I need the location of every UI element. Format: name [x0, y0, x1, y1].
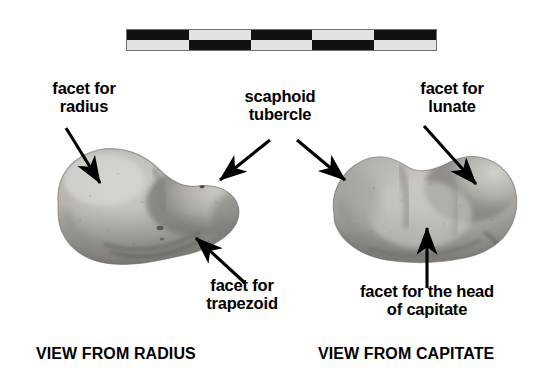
label-scaphoid-tubercle: scaphoid tubercle — [210, 88, 350, 124]
scale-cell — [127, 30, 189, 40]
scale-cell — [312, 30, 374, 40]
scale-cell — [374, 30, 436, 40]
scale-cell — [251, 30, 313, 40]
scale-bar-top-row — [127, 30, 436, 40]
label-facet-for-trapezoid: facet for trapezoid — [166, 277, 318, 313]
label-facet-for-radius: facet for radius — [18, 80, 150, 116]
scale-cell — [251, 40, 313, 50]
scale-bar — [126, 29, 437, 51]
label-facet-for-head-of-capitate: facet for the head of capitate — [326, 283, 528, 319]
label-facet-for-lunate: facet for lunate — [382, 80, 522, 116]
scale-cell — [189, 30, 251, 40]
scale-cell — [374, 40, 436, 50]
scale-cell — [312, 40, 374, 50]
scale-cell — [189, 40, 251, 50]
scaphoid-bone-figure: facet for radius scaphoid tubercle facet… — [0, 0, 555, 373]
caption-view-from-radius: VIEW FROM RADIUS — [36, 345, 196, 363]
bone-specimen-left — [50, 140, 246, 282]
bone-specimen-right — [328, 140, 522, 280]
scale-bar-bottom-row — [127, 40, 436, 50]
caption-view-from-capitate: VIEW FROM CAPITATE — [318, 345, 494, 363]
scale-cell — [127, 40, 189, 50]
